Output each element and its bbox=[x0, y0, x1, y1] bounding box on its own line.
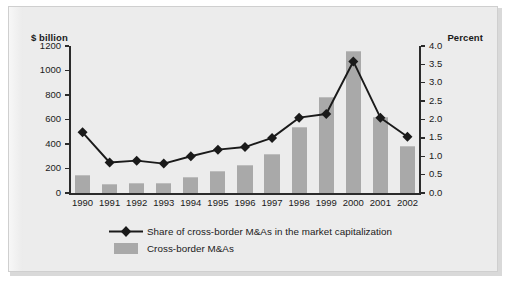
legend-item-cross-border-mas: Cross-border M&As bbox=[105, 240, 465, 257]
x-tick-label-1997: 1997 bbox=[261, 197, 282, 208]
square-swatch-icon bbox=[105, 243, 147, 254]
y-axis-left-tick-label: 200 bbox=[45, 163, 61, 173]
y-axis-right-tick bbox=[421, 119, 425, 120]
chart-figure: $ billion Percent 020040060080010001200 … bbox=[8, 6, 498, 272]
y-axis-right-tick-label: 0.0 bbox=[429, 188, 442, 198]
y-axis-right-tick bbox=[421, 137, 425, 138]
y-axis-right-tick-label: 2.5 bbox=[429, 96, 442, 106]
y-axis-right-tick bbox=[421, 156, 425, 157]
y-axis-left-tick-label: 400 bbox=[45, 139, 61, 149]
line-marker-1993 bbox=[159, 159, 169, 169]
line-marker-1992 bbox=[132, 156, 142, 166]
x-tick-label-1996: 1996 bbox=[234, 197, 255, 208]
x-tick-label-1998: 1998 bbox=[289, 197, 310, 208]
y-axis-right-tick bbox=[421, 174, 425, 175]
y-axis-left-tick-label: 800 bbox=[45, 90, 61, 100]
y-axis-right-tick bbox=[421, 100, 425, 101]
x-tick-label-1995: 1995 bbox=[207, 197, 228, 208]
legend-item-share: Share of cross-border M&As in the market… bbox=[105, 223, 465, 240]
y-axis-right-tick-label: 1.5 bbox=[429, 132, 442, 142]
x-tick-label-1993: 1993 bbox=[153, 197, 174, 208]
x-tick-label-1991: 1991 bbox=[99, 197, 120, 208]
y-axis-right-tick-label: 3.0 bbox=[429, 77, 442, 87]
y-axis-right-tick-label: 1.0 bbox=[429, 151, 442, 161]
line-marker-1994 bbox=[186, 151, 196, 161]
scan-edge-band bbox=[9, 7, 23, 271]
x-axis-line bbox=[69, 193, 421, 195]
y-axis-left-tick-label: 1200 bbox=[40, 41, 61, 51]
x-tick-label-2001: 2001 bbox=[370, 197, 391, 208]
y-axis-right-tick bbox=[421, 64, 425, 65]
y-axis-right-tick bbox=[421, 82, 425, 83]
y-axis-right-tick-label: 4.0 bbox=[429, 41, 442, 51]
chart-legend: Share of cross-border M&As in the market… bbox=[105, 223, 465, 257]
x-tick-label-1990: 1990 bbox=[72, 197, 93, 208]
y-axis-left-tick-label: 1000 bbox=[40, 65, 61, 75]
line-marker-2000 bbox=[348, 56, 358, 66]
x-tick-label-2002: 2002 bbox=[397, 197, 418, 208]
figure-page: $ billion Percent 020040060080010001200 … bbox=[0, 0, 514, 285]
x-axis-tick-labels: 1990199119921993199419951996199719981999… bbox=[69, 197, 421, 213]
y-axis-left-tick-label: 600 bbox=[45, 114, 61, 124]
x-tick-label-2000: 2000 bbox=[343, 197, 364, 208]
y-axis-left-tick-label: 0 bbox=[56, 188, 61, 198]
line-marker-1996 bbox=[240, 142, 250, 152]
y-axis-right-tick-label: 2.0 bbox=[429, 114, 442, 124]
x-tick-label-1992: 1992 bbox=[126, 197, 147, 208]
x-tick-label-1999: 1999 bbox=[316, 197, 337, 208]
x-tick-label-1994: 1994 bbox=[180, 197, 201, 208]
y-axis-right-tick bbox=[421, 45, 425, 46]
y-axis-right-title: Percent bbox=[447, 32, 483, 43]
y-axis-right-tick-label: 0.5 bbox=[429, 169, 442, 179]
plot-area: 020040060080010001200 0.00.51.01.52.02.5… bbox=[69, 46, 421, 193]
line-marker-1999 bbox=[321, 109, 331, 119]
line-marker-1995 bbox=[213, 145, 223, 155]
y-axis-right-tick bbox=[421, 192, 425, 193]
legend-label-cross-border-mas: Cross-border M&As bbox=[147, 243, 234, 254]
line-series-share-of-cross-border-mas bbox=[69, 46, 421, 193]
line-diamond-marker-icon bbox=[105, 225, 147, 238]
legend-label-share: Share of cross-border M&As in the market… bbox=[147, 226, 392, 237]
y-axis-right-tick-label: 3.5 bbox=[429, 59, 442, 69]
